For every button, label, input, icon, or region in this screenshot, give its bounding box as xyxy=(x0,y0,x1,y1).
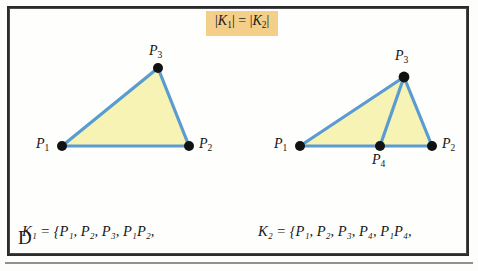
banner-k-right: K xyxy=(252,13,261,28)
triangle-k1-vertex-p2 xyxy=(184,141,194,151)
banner-equals: = xyxy=(235,13,250,28)
vertex-label-k2-p3: P3 xyxy=(395,49,408,67)
diagram-k1: P1 P2 P3 xyxy=(28,36,228,171)
banner-bar-close-right: | xyxy=(267,13,270,28)
title-banner: |K1| = |K2| xyxy=(206,11,278,36)
vertex-label-k2-p4: P4 xyxy=(372,153,385,171)
triangle-k2-vertex-p1 xyxy=(295,141,305,151)
triangle-k1-vertex-p1 xyxy=(57,141,67,151)
vertex-label-k1-p1: P1 xyxy=(36,137,49,155)
vertex-label-k1-p3: P3 xyxy=(149,44,162,62)
vertex-label-k1-p2: P2 xyxy=(199,137,212,155)
figure-label: D xyxy=(18,228,32,248)
figure-container: |K1| = |K2| P1 P2 P3 P1 xyxy=(0,0,478,271)
page-bottom-rule xyxy=(5,262,473,264)
diagram-k2: P1 P2 P3 P4 xyxy=(262,36,472,171)
triangle-k2-vertex-p4 xyxy=(375,141,385,151)
banner-k-left: K xyxy=(218,13,227,28)
triangle-k2-vertex-p2 xyxy=(427,141,437,151)
formula-k1-line-1: K₁ = {P₁, P₂, P₃, P₁P₂, xyxy=(22,222,174,241)
formula-k1: K₁ = {P₁, P₂, P₃, P₁P₂, P₂P₃, P₃P₁, P₁P₂… xyxy=(22,184,174,271)
triangle-k1-svg xyxy=(28,36,228,171)
triangle-k1-vertex-p3 xyxy=(153,63,163,73)
triangle-k2-vertex-p3 xyxy=(399,72,410,83)
triangle-k1-face xyxy=(62,68,189,146)
triangle-k2-svg xyxy=(262,36,472,171)
formula-k2-line-1: K₂ = {P₁, P₂, P₃, P₄, P₁P₄, xyxy=(258,222,412,241)
vertex-label-k2-p1: P1 xyxy=(274,137,287,155)
formula-k2: K₂ = {P₁, P₂, P₃, P₄, P₁P₄, P₄P₂, P₂P₃, … xyxy=(258,184,412,271)
vertex-label-k2-p2: P2 xyxy=(442,137,455,155)
